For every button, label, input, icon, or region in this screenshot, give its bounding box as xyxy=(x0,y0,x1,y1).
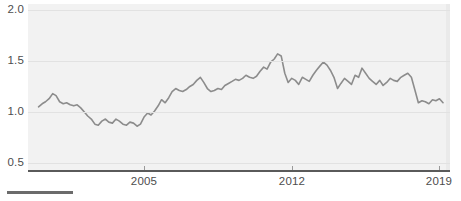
line-chart: 2.01.51.00.5 200520122019 xyxy=(0,0,461,201)
x-tick-label-2019: 2019 xyxy=(419,176,459,187)
x-tick-label-2005: 2005 xyxy=(124,176,164,187)
series-line xyxy=(28,4,450,171)
y-tick-label-0.5: 0.5 xyxy=(0,157,24,168)
x-axis-line xyxy=(28,170,450,172)
series-polyline xyxy=(39,54,443,126)
gridline-1.5 xyxy=(28,61,450,62)
y-tick-label-1.0: 1.0 xyxy=(0,106,24,117)
gridline-2.0 xyxy=(28,10,450,11)
plot-area xyxy=(28,4,450,171)
gridline-1.0 xyxy=(28,112,450,113)
x-tick-label-2012: 2012 xyxy=(272,176,312,187)
y-tick-label-1.5: 1.5 xyxy=(0,55,24,66)
y-tick-label-2.0: 2.0 xyxy=(0,4,24,15)
gridline-0.5 xyxy=(28,163,450,164)
footer-rule xyxy=(7,191,73,194)
